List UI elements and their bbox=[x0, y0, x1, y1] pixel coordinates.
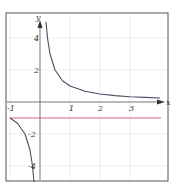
y-tick-label-neg2: -2 bbox=[28, 130, 36, 139]
x-tick-label-2: 2 bbox=[97, 104, 103, 113]
x-tick-label-neg1: -1 bbox=[7, 104, 15, 113]
y-tick-label-neg4: -4 bbox=[28, 162, 36, 171]
x-tick-label-1: 1 bbox=[69, 104, 74, 113]
y-tick-label-2: 2 bbox=[33, 66, 39, 75]
function-plot: y x -1 1 2 3 4 2 -2 -4 bbox=[0, 0, 177, 193]
x-axis-label: x bbox=[166, 98, 171, 107]
x-tick-label-3: 3 bbox=[129, 104, 134, 113]
y-axis-label: y bbox=[35, 13, 41, 22]
y-tick-label-4: 4 bbox=[33, 34, 39, 43]
